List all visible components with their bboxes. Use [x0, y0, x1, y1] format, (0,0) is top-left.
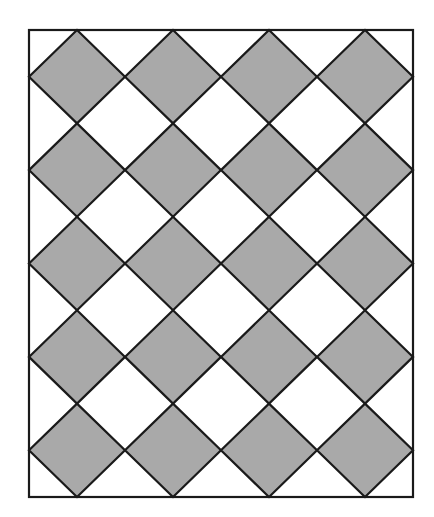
- gray-diamond: [29, 404, 125, 497]
- gray-diamond: [221, 217, 317, 310]
- gray-diamond: [221, 123, 317, 216]
- diamond-tiling-diagram: [0, 0, 434, 517]
- gray-diamond: [29, 310, 125, 403]
- gray-diamonds-group: [29, 30, 413, 497]
- gray-diamond: [317, 123, 413, 216]
- gray-diamond: [317, 217, 413, 310]
- gray-diamond: [125, 30, 221, 123]
- gray-diamond: [125, 123, 221, 216]
- gray-diamond: [317, 404, 413, 497]
- gray-diamond: [317, 310, 413, 403]
- gray-diamond: [221, 404, 317, 497]
- gray-diamond: [125, 404, 221, 497]
- gray-diamond: [29, 123, 125, 216]
- gray-diamond: [221, 30, 317, 123]
- gray-diamond: [125, 217, 221, 310]
- gray-diamond: [29, 30, 125, 123]
- gray-diamond: [29, 217, 125, 310]
- gray-diamond: [317, 30, 413, 123]
- gray-diamond: [125, 310, 221, 403]
- gray-diamond: [221, 310, 317, 403]
